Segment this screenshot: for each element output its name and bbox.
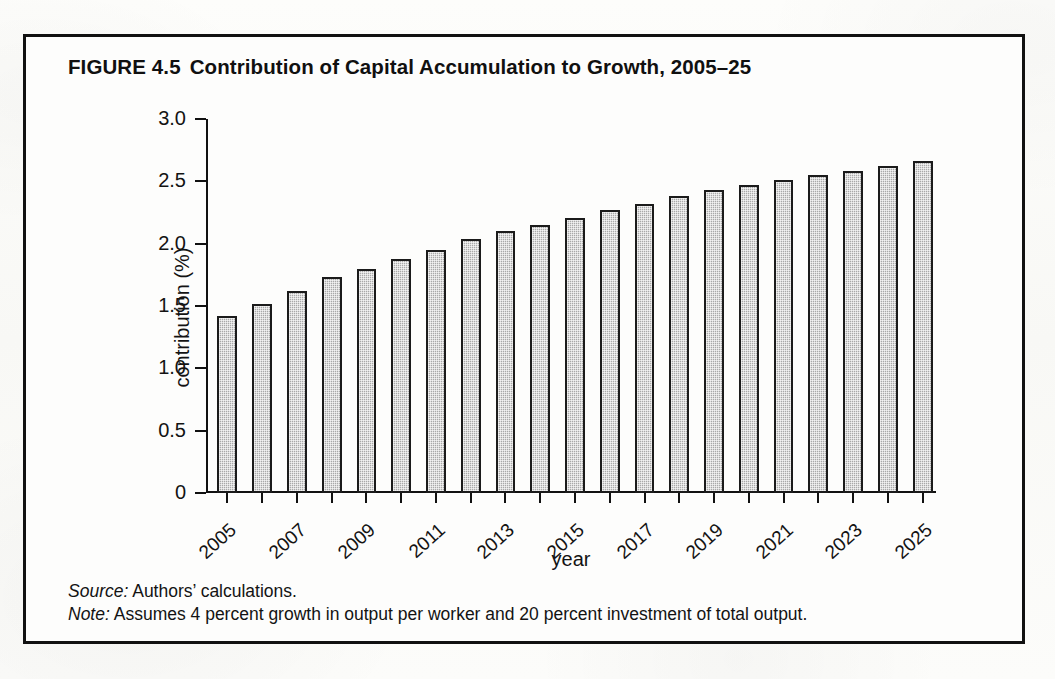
- y-axis-line: [206, 119, 208, 493]
- bar: [565, 218, 585, 494]
- bar: [774, 180, 794, 493]
- x-axis-tick: 2009: [365, 493, 367, 503]
- x-axis-tick: 2013: [504, 493, 506, 503]
- x-axis-tick: 2021: [783, 493, 785, 503]
- bar: [635, 204, 655, 493]
- source-text: Authors’ calculations.: [132, 581, 297, 601]
- x-axis-tick: [470, 493, 472, 503]
- y-axis-tick-label: 1.0: [158, 356, 186, 379]
- bar: [704, 190, 724, 493]
- source-label: Source:: [68, 581, 128, 601]
- y-axis-tick-label: 2.5: [158, 169, 186, 192]
- bar: [496, 231, 516, 493]
- x-axis-tick: 2015: [574, 493, 576, 503]
- bar: [739, 185, 759, 493]
- bar: [600, 210, 620, 493]
- x-axis-tick: [678, 493, 680, 503]
- y-axis-tick: 0.5: [195, 430, 206, 432]
- y-axis-tick: 0: [195, 492, 206, 494]
- bar: [426, 250, 446, 493]
- y-axis-tick-label: 0: [175, 481, 186, 504]
- x-axis-tick: [748, 493, 750, 503]
- bar: [461, 239, 481, 493]
- bar: [287, 291, 307, 493]
- figure-footnotes: Source: Authors’ calculations. Note: Ass…: [68, 580, 807, 626]
- bar: [322, 277, 342, 493]
- x-axis-tick: [400, 493, 402, 503]
- x-axis-tick: 2025: [922, 493, 924, 503]
- x-axis-tick: 2023: [852, 493, 854, 503]
- y-axis-tick-label: 1.5: [158, 294, 186, 317]
- y-axis-tick: 1.5: [195, 305, 206, 307]
- x-axis-title: year: [206, 548, 936, 571]
- y-axis-tick: 2.5: [195, 180, 206, 182]
- y-axis-tick-label: 0.5: [158, 418, 186, 441]
- x-axis-tick: 2017: [644, 493, 646, 503]
- y-axis-tick-label: 2.0: [158, 231, 186, 254]
- bar: [217, 316, 237, 493]
- y-axis-tick: 2.0: [195, 243, 206, 245]
- x-axis-tick: [331, 493, 333, 503]
- bar: [878, 166, 898, 493]
- y-axis-tick: 1.0: [195, 367, 206, 369]
- x-axis-tick: 2007: [296, 493, 298, 503]
- x-axis-tick: [817, 493, 819, 503]
- x-axis-tick: 2019: [713, 493, 715, 503]
- bar: [808, 175, 828, 493]
- note-line: Note: Assumes 4 percent growth in output…: [68, 603, 807, 626]
- y-axis-tick-label: 3.0: [158, 107, 186, 130]
- x-axis-tick: [609, 493, 611, 503]
- note-label: Note:: [68, 604, 110, 624]
- note-text: Assumes 4 percent growth in output per w…: [114, 604, 808, 624]
- bar: [391, 259, 411, 493]
- bar: [530, 225, 550, 493]
- bar: [843, 171, 863, 493]
- bar: [252, 304, 272, 493]
- bar: [669, 196, 689, 493]
- x-axis-tick: [539, 493, 541, 503]
- x-axis-tick: [887, 493, 889, 503]
- bar: [357, 269, 377, 493]
- figure-frame: FIGURE 4.5Contribution of Capital Accumu…: [23, 34, 1025, 644]
- x-axis-tick: [261, 493, 263, 503]
- x-axis-tick: 2011: [435, 493, 437, 503]
- source-note: Source: Authors’ calculations.: [68, 580, 807, 603]
- x-axis-tick: 2005: [226, 493, 228, 503]
- plot-area: 00.51.01.52.02.53.0 20052007200920112013…: [206, 119, 936, 493]
- chart-canvas: contribution (%) 00.51.01.52.02.53.0 200…: [26, 37, 1028, 647]
- bar: [913, 161, 933, 493]
- y-axis-tick: 3.0: [195, 118, 206, 120]
